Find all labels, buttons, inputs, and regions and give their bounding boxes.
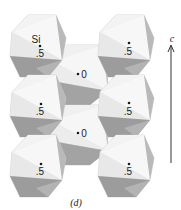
c-axis-label: c [170,33,175,44]
atom-dot [77,132,80,135]
height-label: .5 [124,46,133,57]
atom-dot [39,45,42,48]
height-label: 0 [81,128,87,139]
atom-dot [40,103,43,106]
atom-dot [40,163,43,166]
atom-label-si: Si [32,34,41,45]
crystal-structure-diagram: Si .5 .5 .5 0 0 .5 .5 .5 c (d) [0,0,181,210]
c-axis-arrow [168,45,174,163]
atom-dot [128,163,131,166]
height-label: .5 [124,106,133,117]
figure-caption: (d) [70,197,82,209]
height-label: .5 [36,48,45,59]
height-label: 0 [81,69,87,80]
height-label: .5 [124,166,133,177]
height-label: .5 [36,106,45,117]
atom-dot [128,42,131,45]
height-label: .5 [36,166,45,177]
atom-dot [128,102,131,105]
atom-dot [77,73,80,76]
